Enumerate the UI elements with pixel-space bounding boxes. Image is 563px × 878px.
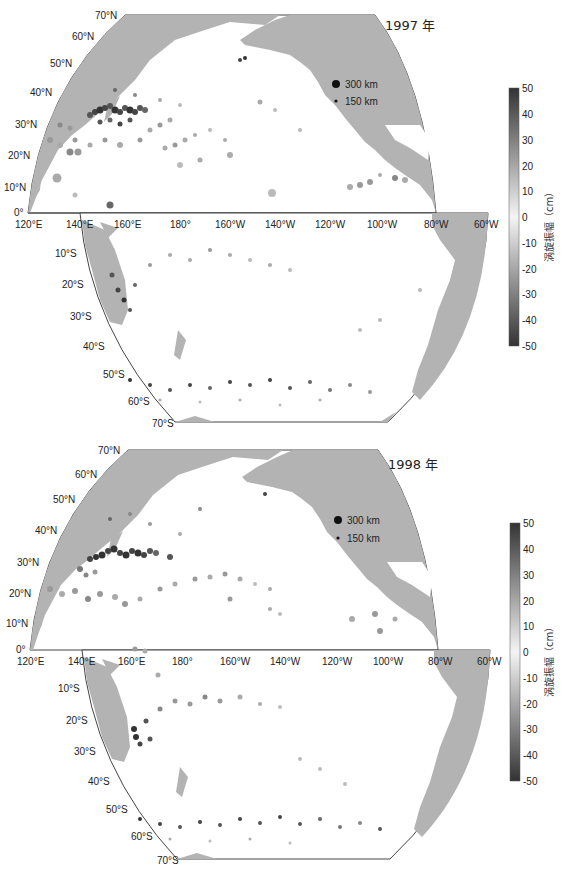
north-pacific-map [30, 450, 438, 650]
legend-label-300km: 300 km [345, 79, 378, 90]
colorbar-tick: -40 [523, 750, 538, 761]
south-pacific-map [82, 650, 490, 859]
lat-label: 50°S [103, 369, 125, 380]
lat-label: 50°N [50, 58, 72, 69]
colorbar-tick: 50 [522, 83, 534, 94]
lat-label: 70°N [95, 10, 117, 21]
panel-title-1997: 1997 年 [385, 18, 435, 33]
lon-label: 80°W [428, 656, 453, 667]
colorbar-tick: -30 [522, 289, 537, 300]
colorbar-tick: 30 [522, 135, 534, 146]
lat-label: 30°N [17, 557, 39, 568]
colorbar-tick: 30 [523, 570, 535, 581]
colorbar-tick: 40 [523, 544, 535, 555]
lon-label: 160°E [118, 656, 146, 667]
lat-label: 50°N [53, 494, 75, 505]
lat-label: 70°N [98, 445, 120, 456]
lon-label: 60°W [474, 219, 499, 230]
lon-label: 120°W [315, 219, 346, 230]
colorbar-tick: 50 [523, 518, 535, 529]
legend-dot-150km [334, 99, 337, 102]
colorbar-tick: 10 [522, 186, 534, 197]
colorbar-label: 涡旋振幅（cm） [543, 622, 555, 697]
colorbar-tick: -20 [522, 264, 537, 275]
lat-label: 20°S [62, 279, 84, 290]
colorbar-tick: -30 [523, 724, 538, 735]
lon-label: 100°W [367, 219, 398, 230]
lat-label: 30°S [74, 746, 96, 757]
lat-label: 50°S [106, 804, 128, 815]
colorbar-tick: -50 [523, 776, 538, 787]
colorbar-tick: 10 [523, 621, 535, 632]
lon-label: 160°W [220, 656, 251, 667]
lat-label: 70°S [157, 855, 179, 866]
legend-dot-150km [336, 536, 339, 539]
lat-label: 40°S [88, 776, 110, 787]
colorbar-label: 涡旋振幅（cm） [543, 187, 555, 262]
map-panel-1997: 70°N 60°N 50°N 40°N 30°N 20°N 10°N 0° 12… [0, 0, 563, 439]
colorbar-tick: 40 [522, 109, 534, 120]
lat-label: 10°N [4, 182, 26, 193]
lon-label: 140°W [265, 219, 296, 230]
lon-label: 140°W [270, 656, 301, 667]
lon-label: 120°E [17, 656, 45, 667]
legend-dot-300km [334, 516, 342, 524]
lon-label: 60°W [477, 656, 502, 667]
colorbar-tick: 20 [523, 596, 535, 607]
lon-label: 140°E [68, 656, 96, 667]
lat-label: 70°S [152, 418, 174, 429]
colorbar-tick: 20 [522, 161, 534, 172]
lat-label: 60°N [72, 31, 94, 42]
lon-label: 80°W [424, 219, 449, 230]
map-panel-1998: 70°N 60°N 50°N 40°N 30°N 20°N 10°N 0° 12… [0, 439, 563, 878]
lat-label: 0° [16, 644, 26, 655]
lat-label: 10°S [58, 683, 80, 694]
lon-label: 100°W [373, 656, 404, 667]
colorbar-tick: -10 [522, 238, 537, 249]
colorbar-tick: 0 [523, 647, 529, 658]
colorbar-tick: -40 [522, 315, 537, 326]
lat-label: 10°N [6, 618, 28, 629]
lat-label: 40°S [83, 341, 105, 352]
lon-label: 180° [172, 656, 193, 667]
lon-label: 160°E [114, 219, 142, 230]
lon-label: 160°W [215, 219, 246, 230]
lon-label: 140°E [66, 219, 94, 230]
lat-label: 60°S [131, 831, 153, 842]
panel-title-1998: 1998 年 [388, 457, 438, 472]
colorbar-tick: -20 [523, 699, 538, 710]
legend-dot-300km [332, 80, 340, 88]
lon-label: 180° [170, 219, 191, 230]
legend-label-300km: 300 km [347, 515, 380, 526]
lon-label: 120°E [15, 219, 43, 230]
lon-label: 120°W [322, 656, 353, 667]
lat-label: 40°N [30, 87, 52, 98]
legend-label-150km: 150 km [347, 533, 380, 544]
colorbar-1997: 50 40 30 20 10 0 -10 -20 -30 -40 -50 涡旋振… [509, 83, 555, 352]
map-1998-svg: 70°N 60°N 50°N 40°N 30°N 20°N 10°N 0° 12… [0, 439, 563, 878]
lat-label: 20°N [8, 150, 30, 161]
colorbar-tick: -50 [522, 341, 537, 352]
map-1997-svg: 70°N 60°N 50°N 40°N 30°N 20°N 10°N 0° 12… [0, 0, 563, 439]
lat-label: 40°N [35, 525, 57, 536]
lat-label: 60°S [128, 396, 150, 407]
lat-label: 30°N [15, 119, 37, 130]
legend-label-150km: 150 km [345, 96, 378, 107]
lat-label: 20°S [66, 715, 88, 726]
colorbar-tick: -10 [523, 673, 538, 684]
lat-label: 20°N [9, 588, 31, 599]
colorbar-tick: 0 [522, 212, 528, 223]
lat-label: 10°S [55, 248, 77, 259]
south-pacific-map [80, 213, 488, 422]
lat-label: 60°N [75, 469, 97, 480]
lat-label: 0° [14, 207, 24, 218]
colorbar-1998: 50 40 30 20 10 0 -10 -20 -30 -40 -50 涡旋振… [510, 518, 555, 787]
lat-label: 30°S [70, 311, 92, 322]
